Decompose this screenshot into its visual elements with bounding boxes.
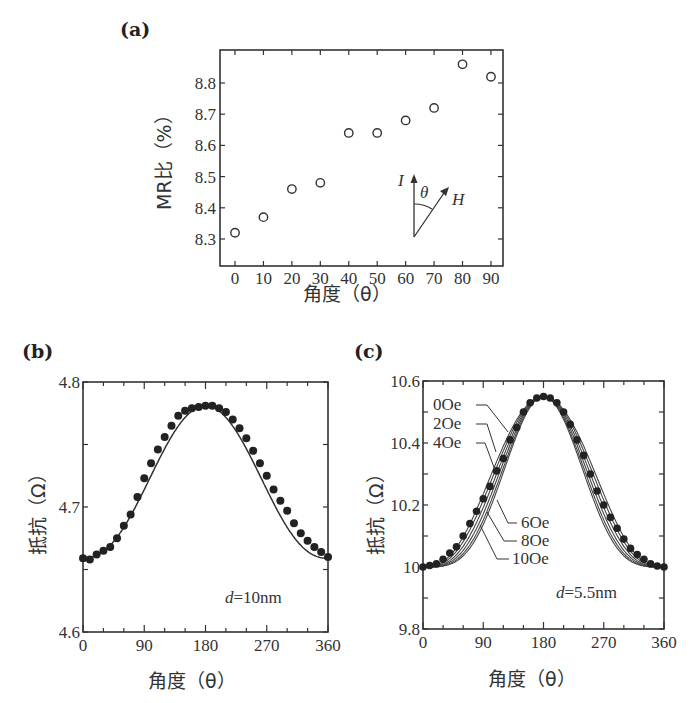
data-point	[433, 560, 441, 568]
inset-angle-diagram: I θ H	[397, 171, 466, 237]
x-tick-label: 20	[283, 269, 300, 288]
x-tick-label: 90	[482, 269, 499, 288]
y-tick-label: 8.4	[195, 199, 217, 218]
data-point	[560, 408, 568, 416]
data-point	[520, 408, 528, 416]
panel-b-label: (b)	[22, 340, 53, 362]
data-point	[161, 433, 169, 441]
panel-b: (b) 0901802703604.64.74.8 d=10nm 角度（θ） 抵…	[22, 340, 341, 692]
y-tick-label: 9.8	[399, 620, 420, 639]
curve-label: 0Oe	[433, 395, 461, 414]
data-point	[373, 129, 381, 137]
data-point	[506, 436, 514, 444]
data-point	[439, 555, 447, 563]
curve-label: 4Oe	[433, 433, 461, 452]
panel-c-ylabel: 抵抗（Ω）	[365, 464, 387, 555]
data-point	[553, 399, 561, 407]
data-point	[140, 474, 148, 482]
panel-c: (c) 0901802703609.81010.210.410.6 0Oe2Oe…	[354, 340, 677, 690]
data-point	[231, 229, 239, 237]
data-point	[486, 483, 494, 491]
data-point	[297, 529, 305, 537]
data-point	[113, 534, 121, 542]
data-point	[426, 562, 434, 570]
data-point	[106, 543, 114, 551]
data-point	[627, 545, 635, 553]
x-tick-label: 360	[315, 636, 341, 655]
leader-line	[480, 525, 509, 559]
data-point	[310, 543, 318, 551]
data-point	[487, 73, 495, 81]
panel-a-label: (a)	[120, 18, 150, 40]
data-point	[533, 394, 541, 402]
data-point	[546, 394, 554, 402]
data-point	[208, 402, 216, 410]
data-point	[154, 446, 162, 454]
data-point	[466, 520, 474, 528]
data-point	[640, 555, 648, 563]
data-point	[202, 402, 210, 410]
annotation-text: =10nm	[234, 588, 282, 607]
data-point	[430, 104, 438, 112]
curve-label: 10Oe	[512, 549, 549, 568]
data-point	[573, 436, 581, 444]
y-tick-label: 8.7	[195, 105, 217, 124]
data-point	[633, 551, 641, 559]
x-tick-label: 90	[136, 636, 153, 655]
data-point	[181, 407, 189, 415]
data-point	[188, 404, 196, 412]
data-point	[174, 412, 182, 420]
x-tick-label: 10	[255, 269, 272, 288]
panel-b-frame	[83, 382, 328, 632]
data-point	[133, 493, 141, 501]
panel-b-data-points	[79, 402, 332, 564]
field-label: H	[451, 190, 466, 209]
data-point	[167, 422, 175, 430]
data-point	[458, 60, 466, 68]
x-tick-label: 270	[591, 633, 617, 652]
data-point	[222, 408, 230, 416]
data-point	[500, 455, 508, 463]
data-point	[526, 399, 534, 407]
data-point	[195, 403, 203, 411]
data-point	[600, 501, 608, 509]
y-tick-label: 10.4	[390, 434, 420, 453]
curve-label: 8Oe	[521, 531, 549, 550]
data-point	[120, 522, 128, 530]
data-point	[147, 459, 155, 467]
x-tick-label: 180	[193, 636, 219, 655]
panel-a: (a) 01020304050607080908.38.48.58.68.78.…	[120, 18, 503, 305]
leader-line	[476, 424, 496, 452]
data-point	[215, 404, 223, 412]
data-point	[249, 447, 257, 455]
data-point	[459, 532, 467, 540]
y-tick-label: 4.7	[59, 498, 81, 517]
data-point	[242, 434, 250, 442]
data-point	[276, 497, 284, 505]
data-point	[270, 486, 278, 494]
curve-label: 2Oe	[433, 414, 461, 433]
data-point	[290, 519, 298, 527]
annotation-text: =5.5nm	[565, 583, 618, 602]
data-point	[288, 185, 296, 193]
y-tick-label: 8.8	[195, 74, 216, 93]
data-point	[566, 421, 574, 429]
data-point	[473, 507, 481, 515]
data-point	[587, 470, 595, 478]
data-point	[79, 554, 87, 562]
data-point	[660, 563, 668, 571]
x-tick-label: 0	[419, 633, 428, 652]
angle-label: θ	[420, 183, 428, 202]
panel-a-frame	[220, 50, 503, 266]
current-label: I	[397, 171, 405, 190]
data-point	[345, 129, 353, 137]
panel-c-xlabel: 角度（θ）	[488, 668, 576, 690]
panel-c-label: (c)	[354, 340, 384, 362]
panel-b-xlabel: 角度（θ）	[148, 670, 236, 692]
data-point	[127, 511, 135, 519]
x-tick-label: 80	[454, 269, 471, 288]
data-point	[86, 556, 94, 564]
panel-b-ticks: 0901802703604.64.74.8	[59, 373, 341, 655]
data-point	[256, 459, 264, 467]
data-point	[316, 179, 324, 187]
